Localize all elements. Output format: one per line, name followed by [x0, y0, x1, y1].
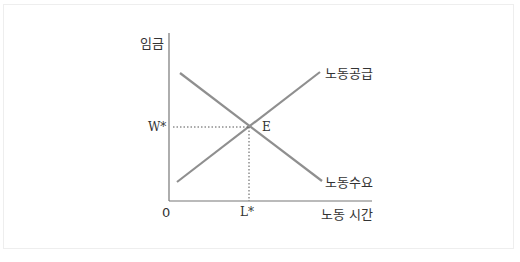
equilibrium-wage-label: W*: [148, 121, 166, 133]
equilibrium-quantity-label: L*: [240, 206, 254, 218]
supply-curve-label: 노동공급: [325, 67, 373, 80]
x-axis-label: 노동 시간: [321, 208, 373, 221]
equilibrium-point-label: E: [262, 121, 271, 133]
demand-curve-label: 노동수요: [325, 176, 373, 189]
labor-market-diagram: [0, 0, 520, 262]
origin-label: 0: [162, 206, 170, 219]
y-axis-label: 임금: [140, 37, 164, 50]
